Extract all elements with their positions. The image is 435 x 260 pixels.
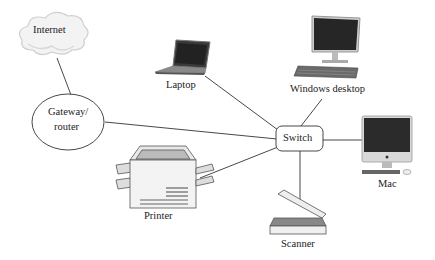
gateway-label-line2: router — [54, 121, 79, 132]
printer-icon — [116, 146, 214, 208]
scanner-icon — [270, 190, 326, 234]
edge-internet-gateway — [57, 58, 71, 95]
imac-icon — [362, 116, 412, 175]
mac-label: Mac — [378, 178, 397, 189]
windows-desktop-label: Windows desktop — [290, 83, 365, 94]
desktop-icon — [294, 16, 360, 78]
switch-label: Switch — [283, 132, 312, 143]
laptop-label: Laptop — [166, 79, 196, 90]
laptop-icon — [155, 40, 210, 75]
gateway-label-line1: Gateway/ — [48, 106, 88, 117]
scanner-label: Scanner — [281, 238, 315, 249]
edge-gateway-switch — [105, 122, 277, 139]
printer-label: Printer — [144, 210, 173, 221]
edge-windows-switch — [301, 99, 322, 126]
edge-switch-printer — [200, 147, 278, 178]
internet-label: Internet — [33, 24, 66, 35]
edge-laptop-switch — [205, 76, 278, 130]
